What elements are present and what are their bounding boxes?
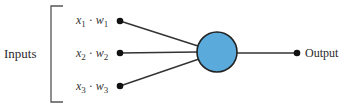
neuron-node xyxy=(197,32,237,72)
output-node xyxy=(294,50,301,57)
inputs-label: Inputs xyxy=(4,46,37,61)
perceptron-diagram: Inputs x1·w1 x2·w2 x3·w3 Output xyxy=(0,0,356,108)
input-label-2: x2·w2 xyxy=(75,46,108,62)
input-node-3 xyxy=(117,83,124,90)
edge-input-2 xyxy=(120,52,197,53)
input-label-1: x1·w1 xyxy=(75,13,108,29)
inputs-bracket xyxy=(51,6,63,102)
edge-input-3 xyxy=(120,59,199,86)
input-label-3: x3·w3 xyxy=(75,79,109,95)
edge-input-1 xyxy=(120,21,198,46)
output-label: Output xyxy=(305,46,339,60)
input-node-2 xyxy=(117,50,124,57)
input-node-1 xyxy=(117,18,124,25)
